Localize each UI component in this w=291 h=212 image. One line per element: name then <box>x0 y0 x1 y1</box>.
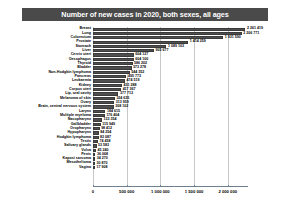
bar <box>93 127 100 130</box>
chart-container: Number of new cases in 2020, both sexes,… <box>0 0 291 212</box>
bar <box>93 97 115 100</box>
bar <box>93 66 132 69</box>
tick-label: 0 <box>92 190 94 194</box>
bar <box>93 28 245 31</box>
category-label: Melanoma of skin <box>0 97 93 101</box>
bar <box>93 58 134 61</box>
chart-title: Number of new cases in 2020, both sexes,… <box>61 11 228 18</box>
chart-title-banner: Number of new cases in 2020, both sexes,… <box>22 8 268 21</box>
bar <box>93 88 121 91</box>
tick-mark <box>160 185 161 188</box>
bar <box>93 123 101 126</box>
category-label: Salivary glands <box>0 144 93 148</box>
bar <box>93 101 114 104</box>
category-label: Stomach <box>0 45 93 49</box>
tick-mark <box>194 185 195 188</box>
tick-mark <box>93 185 94 188</box>
bar <box>93 110 105 113</box>
bar <box>93 71 130 74</box>
tick-label: 2 000 000 <box>218 190 237 194</box>
category-label: Vagina <box>0 166 93 170</box>
bar <box>93 62 133 65</box>
bar <box>93 79 125 82</box>
bar-rows: Breast2 261 419Lung2 206 771Colorectum1 … <box>0 27 291 170</box>
category-label: Vulva <box>0 149 93 153</box>
bar <box>93 75 126 78</box>
bar-value-label: 17 908 <box>95 166 108 170</box>
tick-label: 1 500 000 <box>185 190 204 194</box>
tick-mark <box>228 185 229 188</box>
bar <box>93 92 118 95</box>
x-axis-ticks: 0500 0001 000 0001 500 0002 000 000 <box>93 186 248 206</box>
bar <box>93 53 134 56</box>
bar-zone: 17 908 <box>93 166 291 170</box>
bar-row: Vagina17 908 <box>0 166 291 170</box>
bar <box>93 118 102 121</box>
bar <box>93 84 122 87</box>
category-label: Hodgkin lymphoma <box>0 136 93 140</box>
plot-area: Breast2 261 419Lung2 206 771Colorectum1 … <box>0 27 291 187</box>
tick-label: 1 000 000 <box>151 190 170 194</box>
tick-mark <box>127 185 128 188</box>
bar <box>93 32 242 35</box>
category-label: Breast <box>0 27 93 31</box>
tick-label: 500 000 <box>119 190 134 194</box>
